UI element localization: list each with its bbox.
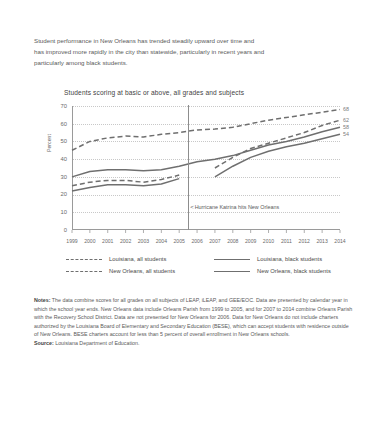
- intro-line-2: has improved more rapidly in the city th…: [34, 47, 334, 58]
- y-axis-tick-label: 30: [45, 174, 67, 180]
- katrina-vertical-line: [188, 105, 189, 230]
- x-axis-ticks: 1999200020012002200320042005200620072008…: [72, 238, 340, 248]
- intro-paragraph: Student performance in New Orleans has t…: [34, 36, 334, 69]
- x-axis-tick-label: 2001: [102, 238, 113, 244]
- x-axis-tick-label: 2014: [334, 238, 345, 244]
- legend-item-louisiana-all[interactable]: Louisiana, all students: [66, 256, 214, 262]
- legend-swatch-solid-icon: [214, 259, 250, 260]
- legend-item-louisiana-black[interactable]: Louisiana, black students: [214, 256, 322, 262]
- intro-line-3: particularly among black students.: [34, 58, 334, 69]
- legend-swatch-dashed-icon: [66, 271, 102, 272]
- x-axis-tick-label: 2000: [84, 238, 95, 244]
- legend-label: Louisiana, all students: [109, 256, 166, 262]
- legend-label: New Orleans, all students: [109, 268, 175, 274]
- plot-area: [72, 106, 340, 230]
- left-arrow-icon: <: [190, 204, 194, 210]
- x-axis-tick-label: 2004: [156, 238, 167, 244]
- series-end-label: 58: [343, 124, 349, 130]
- y-axis-tick-label: 60: [45, 121, 67, 127]
- y-axis-tick-label: 20: [45, 191, 67, 197]
- legend-swatch-dashed-icon: [66, 259, 102, 260]
- legend-row: Louisiana, all students Louisiana, black…: [66, 256, 366, 262]
- intro-line-1: Student performance in New Orleans has t…: [34, 36, 334, 47]
- source-paragraph: Source: Louisiana Department of Educatio…: [34, 339, 354, 348]
- notes-block: Notes: The data combine scores for all g…: [34, 296, 354, 347]
- x-axis-tick-label: 2008: [227, 238, 238, 244]
- series-end-label: 68: [343, 106, 349, 112]
- katrina-annotation-text: Hurricane Katrina hits New Orleans: [195, 204, 280, 210]
- source-body: Louisiana Department of Education.: [54, 340, 140, 346]
- notes-paragraph: Notes: The data combine scores for all g…: [34, 296, 354, 339]
- x-axis-tick-label: 2010: [263, 238, 274, 244]
- legend-swatch-solid-icon: [214, 271, 250, 272]
- chart-title: Students scoring at basic or above, all …: [64, 89, 244, 96]
- series-lines: [72, 106, 340, 230]
- x-axis-tick-label: 2009: [245, 238, 256, 244]
- series-end-label: 54: [343, 131, 349, 137]
- x-axis-tick-label: 2012: [299, 238, 310, 244]
- legend-item-new-orleans-all[interactable]: New Orleans, all students: [66, 268, 214, 274]
- x-axis-tick-label: 2003: [138, 238, 149, 244]
- x-axis-tick-label: 2006: [191, 238, 202, 244]
- legend-row: New Orleans, all students New Orleans, b…: [66, 268, 366, 274]
- x-axis-tick-label: 2013: [316, 238, 327, 244]
- series-line: [72, 179, 179, 191]
- x-axis-tick-label: 2005: [174, 238, 185, 244]
- source-label: Source:: [34, 340, 54, 346]
- legend-label: Louisiana, black students: [257, 256, 322, 262]
- y-axis-tick-label: 50: [45, 138, 67, 144]
- y-axis-tick-label: 70: [45, 103, 67, 109]
- series-end-label: 62: [343, 117, 349, 123]
- x-axis-tick-label: 1999: [66, 238, 77, 244]
- chart-legend: Louisiana, all students Louisiana, black…: [66, 256, 366, 280]
- y-axis-tick-label: 40: [45, 156, 67, 162]
- notes-label: Notes:: [34, 297, 50, 303]
- y-axis-tick-label: 10: [45, 209, 67, 215]
- legend-item-new-orleans-black[interactable]: New Orleans, black students: [214, 268, 331, 274]
- x-axis-tick-label: 2002: [120, 238, 131, 244]
- notes-body: The data combine scores for all grades o…: [34, 297, 352, 337]
- chart-figure-page: Student performance in New Orleans has t…: [0, 0, 385, 424]
- katrina-annotation: <Hurricane Katrina hits New Orleans: [190, 204, 279, 210]
- legend-label: New Orleans, black students: [257, 268, 331, 274]
- x-axis-tick-label: 2007: [209, 238, 220, 244]
- y-axis-tick-label: 0: [45, 227, 67, 233]
- series-line: [72, 127, 340, 177]
- x-axis-tick-label: 2011: [281, 238, 292, 244]
